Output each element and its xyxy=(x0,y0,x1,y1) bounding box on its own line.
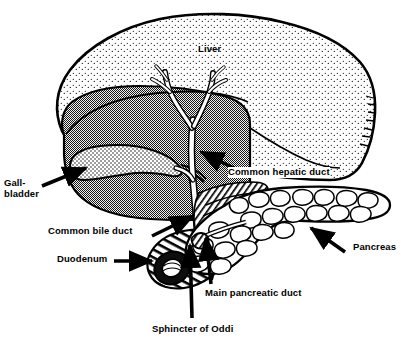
label-common-hepatic-duct: Common hepatic duct xyxy=(228,167,330,178)
label-duodenum: Duodenum xyxy=(57,254,107,265)
label-gallbladder-line2: bladder xyxy=(4,189,39,200)
label-sphincter-of-oddi: Sphincter of Oddi xyxy=(152,324,233,335)
label-liver: Liver xyxy=(198,44,221,55)
sphincter-of-oddi-arrow xyxy=(190,245,192,318)
label-pancreas: Pancreas xyxy=(353,242,396,253)
biliary-system-figure: Liver Gall- bladder Common hepatic duct … xyxy=(0,0,401,345)
pancreas-arrow xyxy=(311,228,345,252)
label-gallbladder-line1: Gall- xyxy=(4,178,26,189)
label-main-pancreatic-duct: Main pancreatic duct xyxy=(205,288,302,299)
label-common-bile-duct: Common bile duct xyxy=(48,226,132,237)
